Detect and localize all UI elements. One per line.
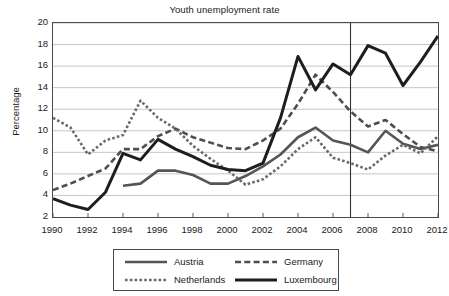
legend-label-netherlands: Netherlands [174,274,225,285]
x-tick-label: 2000 [209,224,245,235]
legend-swatch-luxembourg [234,275,278,285]
y-tick-label: 8 [22,145,48,156]
legend-swatch-germany [234,257,278,267]
x-tick-label: 2002 [244,224,280,235]
plot-area [52,22,439,218]
chart-legend: Austria Germany Netherlands Luxembourg [113,249,339,291]
x-tick-label: 2010 [384,224,420,235]
plot-svg [53,23,438,217]
y-tick-label: 14 [22,81,48,92]
legend-item-luxembourg: Luxembourg [234,274,337,285]
x-tick-label: 2004 [279,224,315,235]
y-tick-label: 18 [22,38,48,49]
x-tick-label: 1996 [139,224,175,235]
y-tick-label: 6 [22,167,48,178]
legend-label-austria: Austria [174,256,204,267]
legend-item-netherlands: Netherlands [124,274,225,285]
y-tick-label: 2 [22,210,48,221]
y-tick-label: 12 [22,102,48,113]
legend-label-germany: Germany [284,256,323,267]
y-axis-label: Percentage [10,67,21,157]
x-tick-label: 1990 [34,224,70,235]
x-tick-label: 1994 [104,224,140,235]
x-tick-label: 2006 [314,224,350,235]
legend-swatch-netherlands [124,275,168,285]
legend-swatch-austria [124,257,168,267]
y-tick-label: 10 [22,124,48,135]
x-tick-label: 1998 [174,224,210,235]
x-tick-label: 1992 [69,224,105,235]
legend-item-austria: Austria [124,256,204,267]
chart-title: Youth unemployment rate [0,4,449,15]
legend-item-germany: Germany [234,256,323,267]
y-tick-label: 20 [22,16,48,27]
x-tick-label: 2008 [349,224,385,235]
x-tick-label: 2012 [419,224,449,235]
legend-label-luxembourg: Luxembourg [284,274,337,285]
chart-figure: Youth unemployment rate Percentage 24681… [0,0,449,296]
y-tick-label: 4 [22,188,48,199]
y-tick-label: 16 [22,59,48,70]
